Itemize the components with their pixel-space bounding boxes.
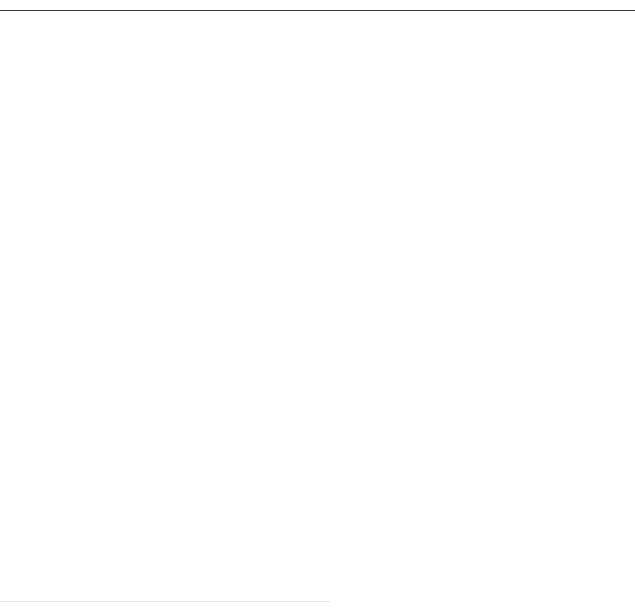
figure-page [0,0,635,608]
roc-chart [0,0,635,608]
